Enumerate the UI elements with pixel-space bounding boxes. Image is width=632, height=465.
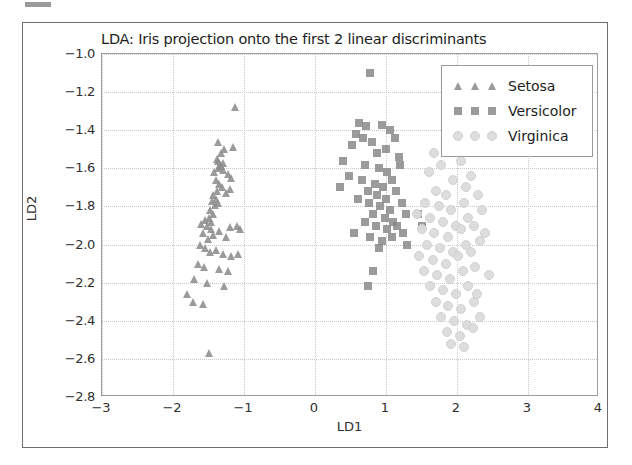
x-tick-label: 2 [452,400,460,415]
data-point-versicolor [382,145,390,153]
data-point-virginica [442,327,452,337]
legend-key-glyph [470,131,480,141]
data-point-virginica [420,198,430,208]
data-point-setosa [203,279,211,287]
data-point-virginica [441,259,451,269]
data-point-virginica [429,148,439,158]
legend-label: Setosa [500,78,555,94]
data-point-versicolor [354,195,362,203]
data-point-virginica [417,224,427,234]
y-tick-label: −1.8 [65,198,95,213]
figure-card: LDA: Iris projection onto the first 2 li… [22,22,608,448]
y-axis-ticks: −1.0−1.2−1.4−1.6−1.8−2.0−2.2−2.4−2.6−2.8 [33,53,95,396]
data-point-virginica [443,232,453,242]
data-point-virginica [451,289,461,299]
legend-key-glyph [488,107,496,115]
data-point-virginica [466,171,476,181]
data-point-virginica [461,182,471,192]
data-point-versicolor [365,199,373,207]
data-point-versicolor [361,161,369,169]
x-tick-label: −2 [162,400,181,415]
data-point-virginica [475,312,485,322]
x-tick-label: 1 [381,400,389,415]
data-point-versicolor [369,267,377,275]
data-point-virginica [449,316,459,326]
data-point-virginica [455,331,465,341]
data-point-virginica [425,281,435,291]
data-point-virginica [431,297,441,307]
data-point-versicolor [362,122,370,130]
data-point-setosa [199,300,207,308]
data-point-virginica [468,323,478,333]
data-point-setosa [224,267,232,275]
data-point-virginica [470,262,480,272]
data-point-setosa [214,138,222,146]
data-point-versicolor [339,157,347,165]
x-tick-label: −1 [233,400,252,415]
y-tick-label: −2.0 [65,236,95,251]
data-point-versicolor [350,229,358,237]
data-point-versicolor [375,164,383,172]
data-point-versicolor [366,69,374,77]
y-tick-label: −2.6 [65,350,95,365]
data-point-setosa [220,145,228,153]
data-point-virginica [448,175,458,185]
data-point-versicolor [372,222,380,230]
legend-item-versicolor[interactable]: Versicolor [450,98,584,123]
data-point-setosa [199,229,207,237]
data-point-versicolor [403,241,411,249]
data-point-virginica [419,266,429,276]
gridline-vertical [173,54,174,395]
data-point-virginica [434,201,444,211]
data-point-versicolor [348,141,356,149]
legend-key-glyph [453,131,463,141]
data-point-versicolor [388,233,396,241]
data-point-virginica [435,243,445,253]
data-point-virginica [445,274,455,284]
data-point-versicolor [336,183,344,191]
data-point-virginica [446,205,456,215]
x-axis-label: LD1 [101,419,598,434]
legend-marker-circle-icon [450,129,500,143]
data-point-setosa [226,185,234,193]
data-point-versicolor [361,218,369,226]
x-tick-label: 3 [523,400,531,415]
y-tick-label: −1.2 [65,84,95,99]
data-point-virginica [456,304,466,314]
y-tick-label: −1.0 [65,46,95,61]
legend-key-glyph [454,107,462,115]
data-point-setosa [219,250,227,258]
y-tick-label: −1.6 [65,160,95,175]
legend-marker-square-icon [450,104,500,118]
legend-item-setosa[interactable]: Setosa [450,73,584,98]
data-point-virginica [477,205,487,215]
data-point-virginica [414,251,424,261]
data-point-versicolor [366,233,374,241]
legend-item-virginica[interactable]: Virginica [450,123,584,148]
data-point-virginica [473,190,483,200]
data-point-setosa [190,275,198,283]
data-point-versicolor [358,176,366,184]
data-point-virginica [469,221,479,231]
gridline-horizontal [102,245,597,246]
data-point-virginica [412,209,422,219]
data-point-setosa [236,225,244,233]
data-point-setosa [222,233,230,241]
gridline-horizontal [102,54,597,55]
data-point-virginica [422,240,432,250]
data-point-virginica [428,255,438,265]
data-point-virginica [472,289,482,299]
data-point-virginica [446,339,456,349]
x-tick-label: 0 [310,400,318,415]
legend-key-glyph [488,82,496,90]
legend-label: Virginica [500,128,568,144]
data-point-virginica [438,217,448,227]
data-point-versicolor [388,176,396,184]
data-point-virginica [456,224,466,234]
gridline-horizontal [102,321,597,322]
data-point-versicolor [364,187,372,195]
x-tick-label: −3 [91,400,110,415]
gridline-vertical [102,54,103,395]
data-point-virginica [436,160,446,170]
gridline-horizontal [102,283,597,284]
